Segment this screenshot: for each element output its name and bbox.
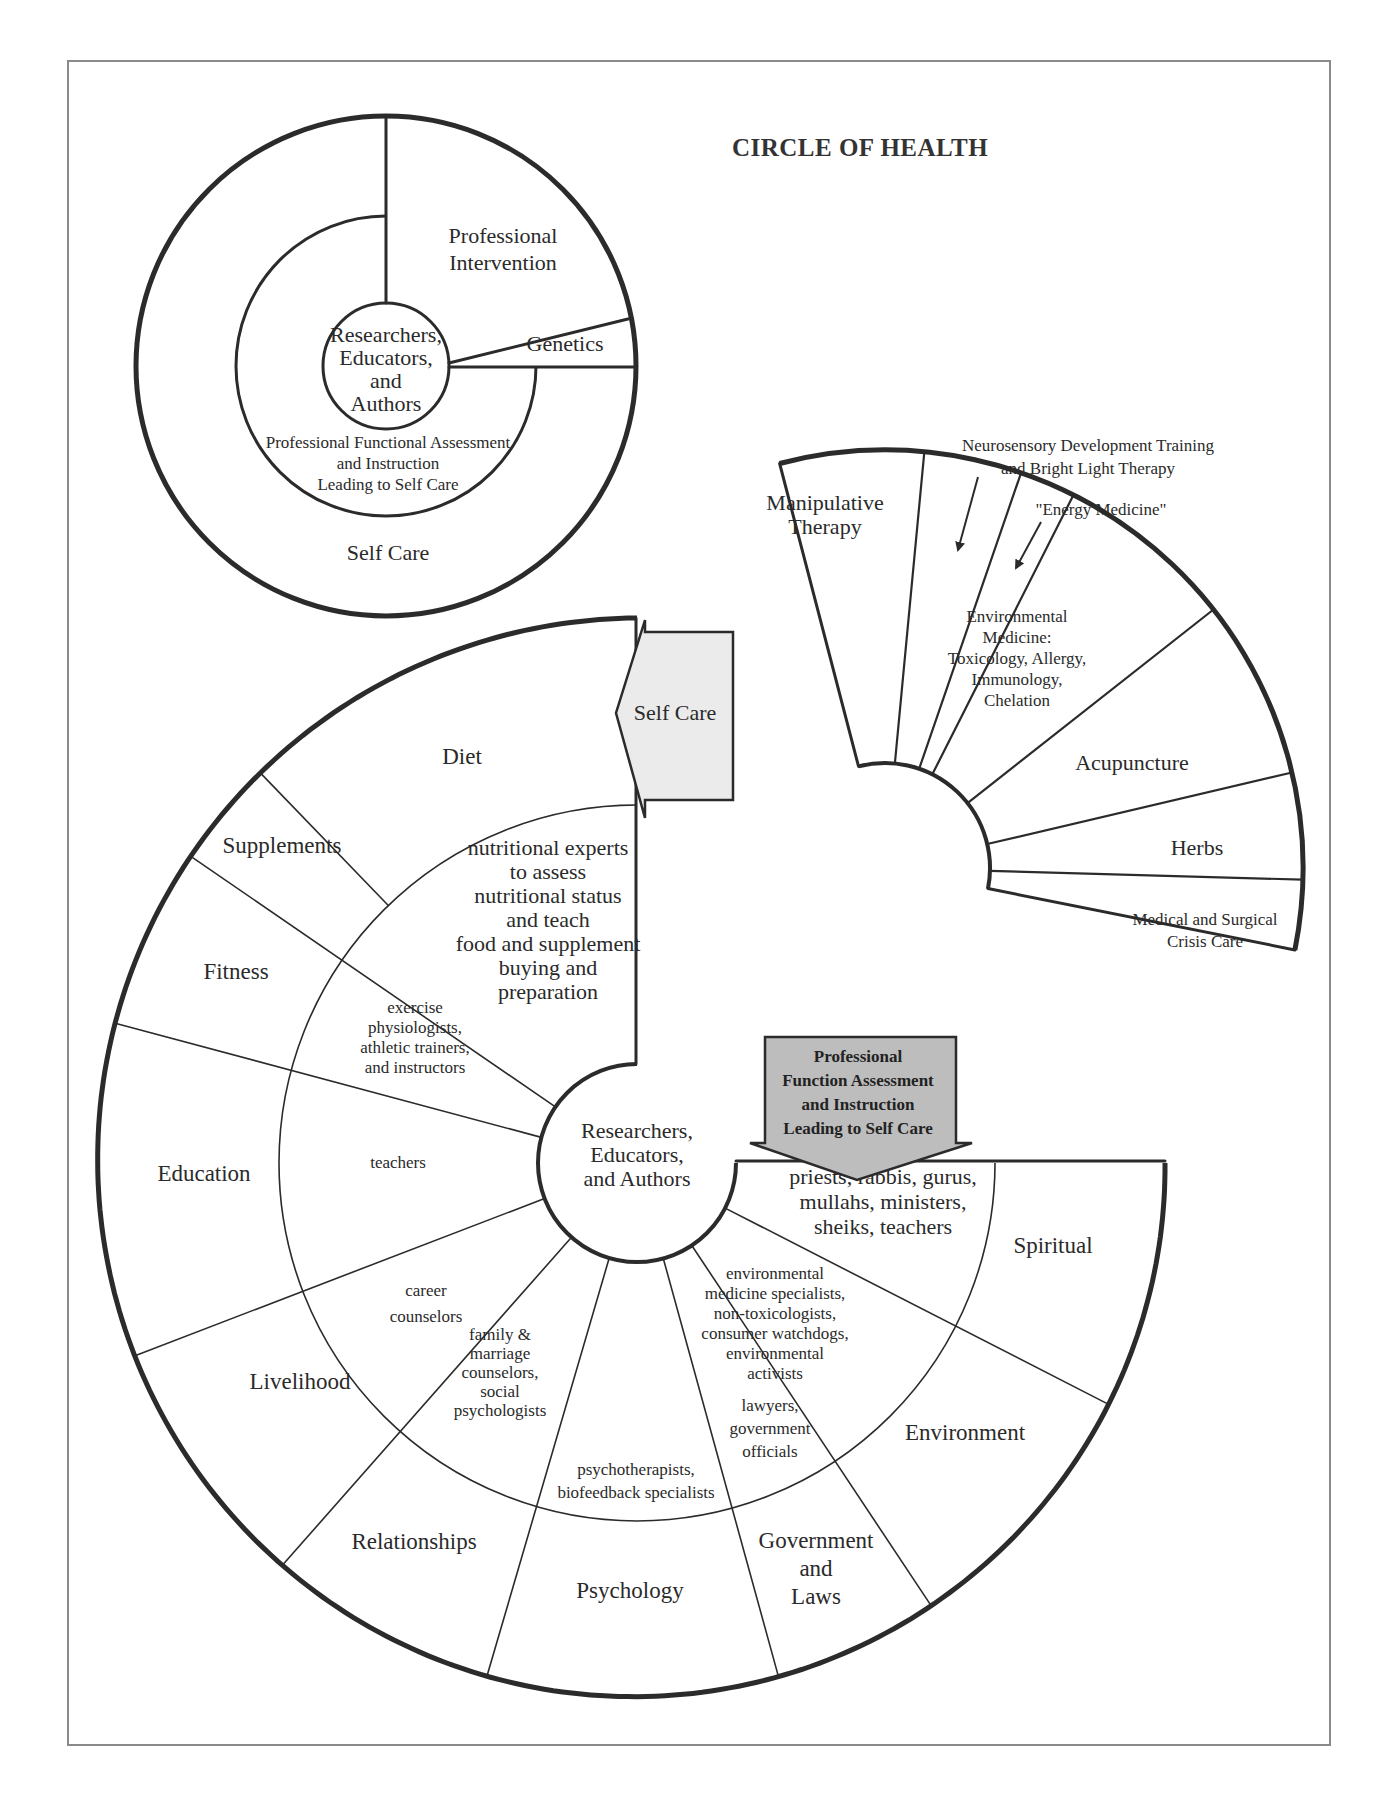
energy-medicine-callout-label-line: "Energy Medicine" bbox=[1035, 500, 1166, 519]
sector-inner-label-line: biofeedback specialists bbox=[557, 1483, 714, 1502]
center-label-line: and bbox=[370, 368, 402, 393]
fan-segment-label-line: Crisis Care bbox=[1167, 932, 1243, 951]
fan-inner-arc bbox=[859, 763, 990, 889]
sector-inner-label-line: medicine specialists, bbox=[705, 1284, 846, 1303]
sector-outer-label: Spiritual bbox=[1013, 1233, 1092, 1258]
sector-outer-label-line: Supplements bbox=[223, 833, 342, 858]
diagram-title: CIRCLE OF HEALTH bbox=[732, 134, 988, 161]
sector-outer-label-line: Education bbox=[157, 1161, 251, 1186]
sector-inner-label: nutritional expertsto assessnutritional … bbox=[456, 835, 641, 1004]
sector-outer-label-line: Diet bbox=[442, 744, 482, 769]
sector-inner-label-line: nutritional status bbox=[474, 883, 621, 908]
middle-ring-label: Professional Functional Assessmentand In… bbox=[266, 433, 511, 494]
sector-outer-label-line: Spiritual bbox=[1013, 1233, 1092, 1258]
sector-inner-label-line: lawyers, bbox=[741, 1396, 798, 1415]
sector-inner-label-line: activists bbox=[747, 1364, 803, 1383]
spiral-center-label-line: and Authors bbox=[584, 1166, 691, 1191]
genetics-label: Genetics bbox=[527, 331, 604, 356]
callout-arrow-icon bbox=[1016, 522, 1041, 568]
fan-segment-label-line: Toxicology, Allergy, bbox=[948, 649, 1086, 668]
sector-inner-label: environmentalmedicine specialists,non-to… bbox=[701, 1264, 848, 1383]
sector-inner-label-line: marriage bbox=[470, 1344, 530, 1363]
sector-inner-label-line: to assess bbox=[510, 859, 586, 884]
sector-outer-label: Fitness bbox=[203, 959, 268, 984]
sector-inner-label-line: environmental bbox=[726, 1264, 824, 1283]
sector-inner-label-line: and instructors bbox=[365, 1058, 466, 1077]
sector-inner-label: careercounselors bbox=[390, 1281, 463, 1326]
fan-divider bbox=[987, 773, 1292, 844]
sector-inner-label-line: and teach bbox=[506, 907, 590, 932]
professional-arrow-label-line: Function Assessment bbox=[782, 1071, 934, 1090]
sector-inner-label-line: government bbox=[729, 1419, 810, 1438]
sector-inner-label-line: teachers bbox=[370, 1153, 426, 1172]
genetics-label-line: Genetics bbox=[527, 331, 604, 356]
middle-ring-label-line: Professional Functional Assessment bbox=[266, 433, 511, 452]
sector-inner-label-line: physiologists, bbox=[368, 1018, 462, 1037]
center-label-line: Educators, bbox=[339, 345, 432, 370]
professional-arrow-label-line: Professional bbox=[814, 1047, 903, 1066]
center-label-line: Authors bbox=[351, 391, 422, 416]
sector-inner-label: psychotherapists,biofeedback specialists bbox=[557, 1460, 714, 1502]
sector-outer-label-line: Livelihood bbox=[250, 1369, 351, 1394]
middle-ring-label-line: Leading to Self Care bbox=[317, 475, 458, 494]
sector-outer-label: Diet bbox=[442, 744, 482, 769]
fan-divider bbox=[990, 871, 1303, 880]
sector-outer-label-line: Environment bbox=[905, 1420, 1026, 1445]
sector-inner-label: family &marriagecounselors,socialpsychol… bbox=[454, 1325, 547, 1420]
sector-inner-label-line: mullahs, ministers, bbox=[800, 1189, 967, 1214]
sector-outer-label: Supplements bbox=[223, 833, 342, 858]
sector-outer-label: Psychology bbox=[576, 1578, 684, 1603]
outer-ring-label-line: Self Care bbox=[347, 540, 429, 565]
fan-segment-label: Acupuncture bbox=[1075, 750, 1189, 775]
spiral-center-label-line: Educators, bbox=[590, 1142, 683, 1167]
sector-outer-label-line: and bbox=[799, 1556, 833, 1581]
fan-segment-label: Herbs bbox=[1171, 835, 1224, 860]
sector-inner-label-line: psychotherapists, bbox=[577, 1460, 695, 1479]
sector-outer-label-line: Relationships bbox=[351, 1529, 476, 1554]
fan-segment-label-line: Environmental bbox=[966, 607, 1067, 626]
sector-inner-label-line: counselors bbox=[390, 1307, 463, 1326]
sector-inner-label-line: officials bbox=[742, 1442, 797, 1461]
sector-inner-label: exercisephysiologists,athletic trainers,… bbox=[360, 998, 470, 1077]
sector-outer-label: Livelihood bbox=[250, 1369, 351, 1394]
sector-inner-label-line: exercise bbox=[387, 998, 443, 1017]
sector-inner-label-line: food and supplement bbox=[456, 931, 641, 956]
sector-inner-label-line: buying and bbox=[499, 955, 597, 980]
sector-inner-label-line: psychologists bbox=[454, 1401, 547, 1420]
sector-outer-label: Relationships bbox=[351, 1529, 476, 1554]
professional-intervention-label: ProfessionalIntervention bbox=[449, 223, 558, 275]
self-care-arrow-label-line: Self Care bbox=[634, 700, 716, 725]
neurosensory-callout-label: Neurosensory Development Trainingand Bri… bbox=[962, 436, 1215, 478]
professional-intervention-fan: ManipulativeTherapyEnvironmentalMedicine… bbox=[766, 436, 1303, 951]
sector-outer-label-line: Psychology bbox=[576, 1578, 684, 1603]
sector-inner-label-line: sheiks, teachers bbox=[814, 1214, 952, 1239]
spiral-center-label: Researchers,Educators,and Authors bbox=[581, 1118, 693, 1191]
fan-segment-label-line: Immunology, bbox=[972, 670, 1063, 689]
sector-inner-label-line: environmental bbox=[726, 1344, 824, 1363]
sector-outer-label-line: Laws bbox=[791, 1584, 841, 1609]
sector-outer-label-line: Government bbox=[759, 1528, 875, 1553]
professional-intervention-label-line: Professional bbox=[449, 223, 558, 248]
fan-segment-label: EnvironmentalMedicine:Toxicology, Allerg… bbox=[948, 607, 1086, 710]
sector-inner-label: teachers bbox=[370, 1153, 426, 1172]
spiral-center-label-line: Researchers, bbox=[581, 1118, 693, 1143]
circle-of-health-diagram: CIRCLE OF HEALTH Researchers,Educators,a… bbox=[0, 0, 1397, 1814]
neurosensory-callout-label-line: and Bright Light Therapy bbox=[1001, 459, 1175, 478]
sector-inner-label-line: career bbox=[405, 1281, 447, 1300]
self-care-arrow-label: Self Care bbox=[634, 700, 716, 725]
professional-arrow-label-line: Leading to Self Care bbox=[783, 1119, 933, 1138]
sector-inner-label-line: nutritional experts bbox=[468, 835, 629, 860]
sector-inner-label-line: athletic trainers, bbox=[360, 1038, 470, 1057]
sector-outer-label-line: Fitness bbox=[203, 959, 268, 984]
fan-segment-label-line: Medicine: bbox=[983, 628, 1052, 647]
fan-segment-label-line: Medical and Surgical bbox=[1132, 910, 1277, 929]
fan-segment-label-line: Chelation bbox=[984, 691, 1051, 710]
fan-segment-label-line: Manipulative bbox=[766, 490, 883, 515]
sector-inner-label-line: preparation bbox=[498, 979, 598, 1004]
sector-inner-label-line: non-toxicologists, bbox=[714, 1304, 836, 1323]
outer-ring-label: Self Care bbox=[347, 540, 429, 565]
self-care-spiral: Researchers,Educators,and AuthorsDietnut… bbox=[98, 618, 1165, 1697]
middle-ring-label-line: and Instruction bbox=[337, 454, 440, 473]
sector-outer-label: Environment bbox=[905, 1420, 1026, 1445]
neurosensory-callout-label-line: Neurosensory Development Training bbox=[962, 436, 1215, 455]
